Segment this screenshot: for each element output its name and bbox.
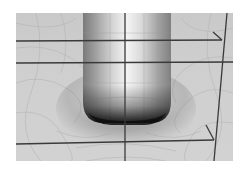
surface-render-graphic <box>16 13 233 161</box>
viewport-render <box>16 13 233 161</box>
construction-line-horizontal-1 <box>16 40 222 41</box>
render-canvas <box>0 0 243 169</box>
arrow-tick-bottom <box>206 125 214 140</box>
construction-lines <box>16 13 233 161</box>
arrow-tick-top <box>213 32 222 40</box>
